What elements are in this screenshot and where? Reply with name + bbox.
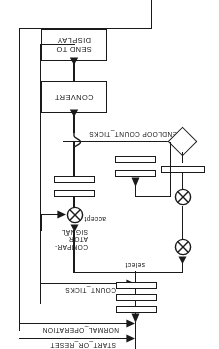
transition-bar-mid-upper — [115, 156, 156, 163]
feedback-inner-right-vertical — [40, 44, 41, 304]
feedback-outer-top-horizontal — [19, 28, 152, 29]
connector-comparator-vertical — [41, 215, 42, 231]
transition-bar-bottom-middle — [116, 294, 157, 301]
connector-comparator-horizontal — [41, 214, 59, 215]
connector-trunk-to-accept-horizontal — [74, 272, 136, 273]
crossed-circle-gate-accept — [66, 206, 84, 224]
connector-gate-a-to-gate-b — [182, 206, 183, 239]
diagram-canvas: SEND TO DISPLAY CONVERT ENDLOOP COUNT_TI… — [0, 0, 219, 349]
arrowhead-into-convert — [69, 109, 79, 117]
process-box-send-to-display-label: SEND TO DISPLAY — [56, 36, 92, 54]
process-box-convert-label: CONVERT — [54, 92, 93, 101]
connector-diamond-side-branch — [170, 142, 171, 197]
connector-right-bars-to-spine — [73, 142, 74, 176]
crossed-circle-gate-b — [174, 238, 192, 256]
connector-diamond-to-bar — [182, 152, 183, 163]
connector-start-or-reset-horizontal — [19, 338, 128, 339]
connector-select-branch-horizontal — [136, 272, 183, 273]
label-start-or-reset: START_OR_RESET — [50, 341, 116, 349]
connector-accept-gate-to-bars — [73, 196, 74, 208]
label-accept: accept — [84, 215, 106, 223]
crossed-circle-gate-a — [174, 188, 192, 206]
transition-bar-bottom-lower — [116, 306, 157, 313]
connector-trunk-to-accept — [73, 230, 74, 273]
diagram-rotated-group: SEND TO DISPLAY CONVERT ENDLOOP COUNT_TI… — [0, 0, 219, 349]
label-normal-operation: NORMAL_OPERATION — [42, 326, 119, 334]
label-count-ticks: COUNT_TICKS — [65, 286, 116, 294]
feedback-outer-left-vertical — [151, 0, 152, 29]
feedback-outer-right-vertical — [19, 28, 20, 331]
transition-bar-bottom-upper — [116, 282, 157, 289]
feedback-inner-top-horizontal — [40, 44, 75, 45]
connector-normal-operation-horizontal — [19, 323, 128, 324]
connector-count-ticks-horizontal — [41, 283, 128, 284]
connector-start-trunk — [135, 319, 136, 349]
label-endloop-count-ticks: ENDLOOP COUNT_TICKS — [89, 130, 177, 138]
arrowhead-convert-to-display — [69, 57, 79, 65]
transition-bar-left — [161, 166, 205, 173]
transition-bar-mid-lower — [115, 170, 156, 177]
endloop-spine — [63, 141, 179, 142]
label-select: select — [125, 261, 145, 269]
transition-bar-right-upper — [54, 176, 95, 183]
connector-mid-bars-feed-horizontal — [135, 196, 171, 197]
connector-bar-to-gate-a — [182, 173, 183, 189]
